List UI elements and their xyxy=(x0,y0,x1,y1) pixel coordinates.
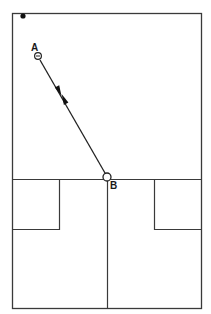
point-b-label: B xyxy=(110,180,117,191)
point-a-label: A xyxy=(31,42,38,53)
court-diagram: A B xyxy=(0,0,211,314)
corner-dot-marker xyxy=(20,13,25,18)
right-service-box xyxy=(155,180,202,230)
movement-path-line xyxy=(40,60,105,173)
left-service-box xyxy=(13,180,60,230)
